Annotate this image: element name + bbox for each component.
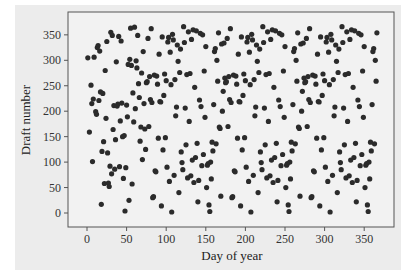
y-tick-label: 350 bbox=[43, 28, 61, 42]
data-point bbox=[338, 160, 343, 165]
data-point bbox=[252, 113, 257, 118]
data-point bbox=[323, 165, 328, 170]
data-point bbox=[146, 124, 151, 129]
data-point bbox=[145, 36, 150, 41]
data-point bbox=[274, 141, 279, 146]
data-point bbox=[305, 74, 310, 79]
data-point bbox=[192, 85, 197, 90]
data-point bbox=[119, 38, 124, 43]
data-point bbox=[111, 127, 116, 132]
data-point bbox=[141, 49, 146, 54]
data-point bbox=[335, 190, 340, 195]
data-point bbox=[234, 82, 239, 87]
x-tick-label: 250 bbox=[276, 232, 294, 246]
data-point bbox=[90, 159, 95, 164]
data-point bbox=[351, 155, 356, 160]
data-point bbox=[280, 152, 285, 157]
data-point bbox=[312, 169, 317, 174]
data-point bbox=[107, 164, 112, 169]
data-point bbox=[359, 152, 364, 157]
data-point bbox=[297, 126, 302, 131]
data-point bbox=[267, 71, 272, 76]
data-point bbox=[170, 32, 175, 37]
data-point bbox=[99, 202, 104, 207]
data-point bbox=[353, 141, 358, 146]
data-point bbox=[143, 147, 148, 152]
data-point bbox=[247, 50, 252, 55]
data-point bbox=[199, 163, 204, 168]
data-point bbox=[370, 102, 375, 107]
data-point bbox=[89, 101, 94, 106]
data-point bbox=[91, 96, 96, 101]
data-point bbox=[149, 26, 154, 31]
data-point bbox=[259, 167, 264, 172]
data-point bbox=[113, 137, 118, 142]
data-point bbox=[251, 173, 256, 178]
data-point bbox=[329, 37, 334, 42]
data-point bbox=[161, 93, 166, 98]
y-axis: 050100150200250300350 bbox=[43, 28, 68, 220]
y-axis-title: Draft number bbox=[18, 84, 33, 155]
x-tick-label: 50 bbox=[121, 232, 133, 246]
data-point bbox=[233, 169, 238, 174]
data-point bbox=[286, 209, 291, 214]
data-point bbox=[208, 160, 213, 165]
data-point bbox=[261, 40, 266, 45]
x-axis-title: Day of year bbox=[201, 248, 263, 263]
data-point bbox=[140, 157, 145, 162]
x-tick-label: 350 bbox=[355, 232, 373, 246]
data-point bbox=[156, 136, 161, 141]
data-point bbox=[336, 70, 341, 75]
data-point bbox=[180, 167, 185, 172]
x-tick-label: 0 bbox=[84, 232, 90, 246]
data-point bbox=[122, 133, 127, 138]
data-point bbox=[248, 209, 253, 214]
data-point bbox=[133, 106, 138, 111]
data-point bbox=[320, 71, 325, 76]
data-point bbox=[168, 82, 173, 87]
data-point bbox=[169, 209, 174, 214]
data-point bbox=[252, 77, 257, 82]
data-point bbox=[281, 68, 286, 73]
data-point bbox=[294, 58, 299, 63]
y-tick-label: 200 bbox=[43, 104, 61, 118]
data-point bbox=[254, 42, 259, 47]
data-point bbox=[351, 85, 356, 90]
data-point bbox=[239, 34, 244, 39]
data-point bbox=[259, 160, 264, 165]
x-axis: 050100150200250300350 bbox=[84, 227, 373, 246]
data-point bbox=[333, 42, 338, 47]
data-point bbox=[96, 98, 101, 103]
data-point bbox=[122, 208, 127, 213]
data-point bbox=[350, 180, 355, 185]
data-point bbox=[328, 32, 333, 37]
data-point bbox=[216, 30, 221, 35]
data-point bbox=[250, 37, 255, 42]
data-point bbox=[154, 74, 159, 79]
data-point bbox=[346, 71, 351, 76]
data-point bbox=[124, 103, 129, 108]
data-point bbox=[193, 155, 198, 160]
data-point bbox=[204, 185, 209, 190]
data-point bbox=[361, 115, 366, 120]
data-point bbox=[225, 36, 230, 41]
data-point bbox=[300, 89, 305, 94]
data-point bbox=[96, 43, 101, 48]
data-point bbox=[210, 148, 215, 153]
data-point bbox=[240, 93, 245, 98]
y-tick-label: 300 bbox=[43, 53, 61, 67]
y-tick-label: 50 bbox=[49, 181, 61, 195]
data-point bbox=[257, 47, 262, 52]
data-point bbox=[367, 176, 372, 181]
data-point bbox=[340, 40, 345, 45]
data-point bbox=[357, 104, 362, 109]
data-point bbox=[358, 163, 363, 168]
data-point bbox=[262, 106, 267, 111]
data-point bbox=[218, 194, 223, 199]
data-point bbox=[282, 44, 287, 49]
data-point bbox=[126, 198, 131, 203]
data-point bbox=[324, 39, 329, 44]
data-point bbox=[157, 52, 162, 57]
data-point bbox=[339, 167, 344, 172]
data-point bbox=[211, 102, 216, 107]
